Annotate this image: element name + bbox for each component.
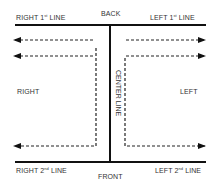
left-second-line-label: LEFT 2nd LINE	[155, 166, 201, 174]
right-side-label: RIGHT	[17, 88, 39, 95]
center-line-label: CENTER LINE	[115, 70, 122, 116]
back-label: BACK	[101, 10, 120, 17]
right-second-line-label: RIGHT 2nd LINE	[16, 166, 67, 174]
left-side-label: LEFT	[180, 88, 198, 95]
front-label: FRONT	[98, 173, 123, 180]
left-first-line-label: LEFT 1st LINE	[150, 13, 195, 21]
right-first-line-label: RIGHT 1st LINE	[16, 13, 66, 21]
